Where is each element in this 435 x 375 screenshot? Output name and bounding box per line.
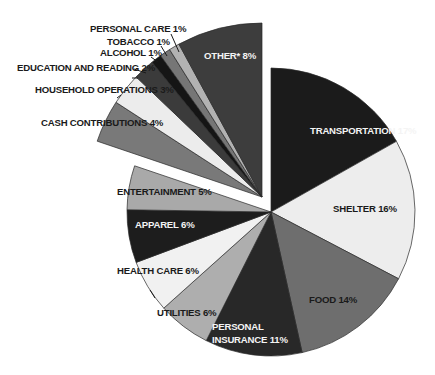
- label-personal-insurance: PERSONAL: [212, 321, 264, 332]
- label-utilities: UTILITIES 6%: [157, 307, 217, 318]
- label-food: FOOD 14%: [309, 294, 358, 305]
- label-personal-insurance-line2: INSURANCE 11%: [212, 334, 288, 345]
- label-household-operations: HOUSEHOLD OPERATIONS 3%: [35, 84, 174, 95]
- label-education-and-reading: EDUCATION AND READING 2%: [17, 62, 156, 73]
- pie-chart-canvas: TRANSPORTATION 17%SHELTER 16%FOOD 14%PER…: [0, 0, 435, 375]
- label-cash-contributions: CASH CONTRIBUTIONS 4%: [41, 117, 164, 128]
- label-tobacco: TOBACCO 1%: [107, 36, 171, 47]
- pie-chart: TRANSPORTATION 17%SHELTER 16%FOOD 14%PER…: [0, 0, 435, 375]
- label-apparel: APPAREL 6%: [135, 219, 195, 230]
- label-shelter: SHELTER 16%: [333, 203, 397, 214]
- label-alcohol: ALCOHOL 1%: [100, 47, 162, 58]
- label-transportation: TRANSPORTATION 17%: [310, 125, 417, 136]
- label-entertainment: ENTERTAINMENT 5%: [117, 186, 212, 197]
- label-other: OTHER* 8%: [204, 50, 257, 61]
- label-personal-care: PERSONAL CARE 1%: [90, 23, 187, 34]
- label-health-care: HEALTH CARE 6%: [117, 265, 199, 276]
